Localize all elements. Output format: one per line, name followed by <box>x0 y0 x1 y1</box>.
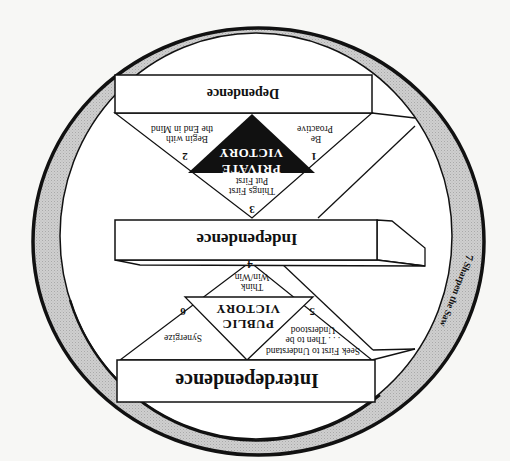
independence-label: Independence <box>196 230 298 249</box>
habit-3-number: 3 <box>249 204 255 216</box>
habit-1-line1: Be <box>311 134 322 144</box>
habit-5-line3: Understood <box>291 325 336 335</box>
habit-3-line2: Things First <box>229 186 276 196</box>
habit-3-line1: Put First <box>235 176 268 186</box>
interdependence-box: Interdependence <box>117 360 375 402</box>
dependence-box: Dependence <box>115 75 372 113</box>
habit-4-line2: Win/Win <box>234 272 269 282</box>
habit-6-number: 6 <box>180 306 186 318</box>
public-victory-line2: VICTORY <box>216 302 280 317</box>
independence-box: Independence <box>115 220 425 266</box>
habit-1-number: 1 <box>311 151 317 163</box>
habit-5-line2: . . . Then to be <box>286 335 341 345</box>
private-victory-line1: PRIVATE <box>221 162 280 177</box>
habit-2-number: 2 <box>182 151 188 163</box>
habit-1-line2: Proactive <box>297 124 333 134</box>
habit-5-line1: Seek First to Understand <box>266 346 360 356</box>
interdependence-label: Interdependence <box>175 369 318 392</box>
private-victory-line2: VICTORY <box>219 146 283 161</box>
habit-2-line2: the End in Mind <box>151 124 213 134</box>
seven-habits-diagram: Dependence PRIVATE VICTORY 1 Be Proactiv… <box>0 0 510 461</box>
habit-4-line1: Think <box>240 282 263 292</box>
habit-6-line1: Synergize <box>164 333 202 343</box>
public-victory-line1: PUBLIC <box>222 317 274 332</box>
dependence-label: Dependence <box>207 86 279 101</box>
habit-4-number: 4 <box>247 259 253 271</box>
habit-5-number: 5 <box>309 306 315 318</box>
habit-2-line1: Begin with <box>166 134 208 144</box>
